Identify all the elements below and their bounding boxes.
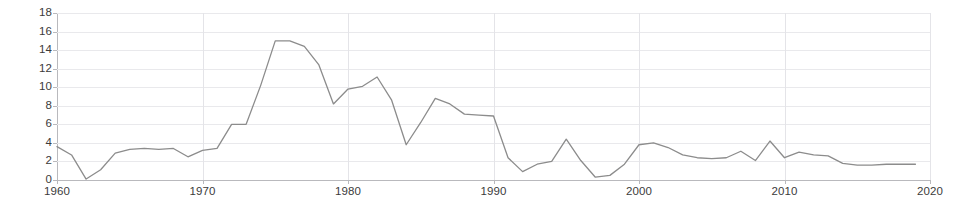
x-axis-tick-mark	[785, 180, 786, 184]
x-axis-tick-label: 1990	[464, 185, 524, 198]
plot-area	[57, 13, 930, 180]
y-axis-tick-label: 10	[6, 81, 52, 92]
series-line-group	[57, 13, 930, 180]
x-axis-tick-mark	[930, 180, 931, 184]
x-axis-tick-label: 2010	[755, 185, 815, 198]
y-axis-tick-label: 8	[6, 100, 52, 111]
y-axis-tick-mark	[53, 50, 57, 51]
x-axis-tick-mark	[494, 180, 495, 184]
y-axis-tick-label: 6	[6, 118, 52, 129]
x-axis-tick-mark	[203, 180, 204, 184]
y-axis-tick-label: 14	[6, 44, 52, 55]
y-axis-tick-mark	[53, 87, 57, 88]
x-axis-tick-label: 1970	[173, 185, 233, 198]
x-axis-tick-label: 2020	[900, 185, 960, 198]
y-axis-tick-label: 4	[6, 137, 52, 148]
y-axis-tick-mark	[53, 106, 57, 107]
y-axis-tick-mark	[53, 13, 57, 14]
x-axis-tick-mark	[57, 180, 58, 184]
y-axis-tick-mark	[53, 124, 57, 125]
x-axis-tick-label: 1980	[318, 185, 378, 198]
y-axis-tick-label: 2	[6, 155, 52, 166]
y-axis-tick-labels: 024681012141618	[0, 0, 52, 205]
x-axis-tick-mark	[348, 180, 349, 184]
x-axis-tick-mark	[639, 180, 640, 184]
y-axis-tick-label: 0	[6, 174, 52, 185]
y-axis-tick-label: 12	[6, 63, 52, 74]
line-chart: 024681012141618 196019701980199020002010…	[0, 0, 969, 205]
y-axis-tick-mark	[53, 32, 57, 33]
y-axis-tick-label: 18	[6, 7, 52, 18]
series-line-1	[57, 41, 915, 179]
gridline-vertical	[930, 13, 931, 180]
y-axis-tick-mark	[53, 143, 57, 144]
y-axis-tick-mark	[53, 69, 57, 70]
x-axis-tick-label: 2000	[609, 185, 669, 198]
y-axis-tick-label: 16	[6, 26, 52, 37]
y-axis-tick-mark	[53, 161, 57, 162]
x-axis-tick-label: 1960	[27, 185, 87, 198]
